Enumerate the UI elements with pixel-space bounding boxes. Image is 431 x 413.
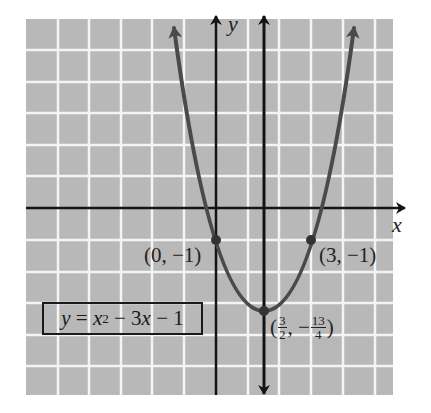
equation-term1: − 3	[109, 306, 142, 331]
vertex-y-denominator: 4	[315, 328, 322, 341]
equation-equals: =	[71, 306, 93, 331]
vertex-x-fraction: 3 2	[278, 314, 287, 341]
equation-term2: − 1	[151, 306, 184, 331]
vertex-x-numerator: 3	[278, 314, 287, 328]
point-0-neg1	[211, 235, 221, 245]
point-3-neg1	[306, 235, 316, 245]
vertex-open-paren: (	[270, 315, 277, 340]
x-axis-label: x	[392, 214, 402, 236]
vertex-point	[259, 306, 269, 316]
vertex-x-denominator: 2	[279, 328, 286, 341]
vertex-label: ( 3 2 , − 13 4 )	[270, 314, 334, 341]
point-label-3-neg1: (3, −1)	[319, 245, 376, 266]
equation-x: x	[93, 306, 102, 331]
y-axis-label: y	[228, 13, 238, 35]
vertex-close-paren: )	[327, 315, 334, 340]
vertex-separator: , −	[288, 315, 310, 340]
equation-x2: x	[142, 306, 151, 331]
parabola-graph	[0, 0, 431, 413]
equation-box: y = x 2 − 3 x − 1	[42, 302, 203, 335]
equation-y: y	[61, 306, 70, 331]
vertex-y-numerator: 13	[311, 314, 326, 328]
point-label-0-neg1: (0, −1)	[144, 245, 201, 266]
vertex-y-fraction: 13 4	[311, 314, 326, 341]
